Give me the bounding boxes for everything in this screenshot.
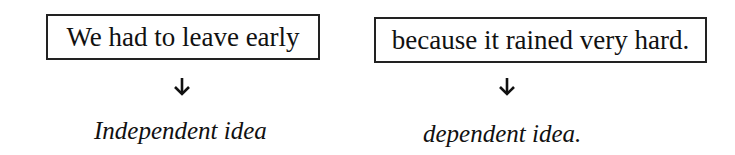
down-arrow-icon (497, 77, 517, 97)
independent-clause-text: We had to leave early (66, 24, 299, 51)
independent-idea-label: Independent idea (94, 118, 267, 143)
independent-clause-box: We had to leave early (46, 14, 320, 60)
dependent-idea-label: dependent idea. (423, 121, 581, 146)
dependent-clause-box: because it rained very hard. (374, 17, 707, 63)
dependent-clause-text: because it rained very hard. (392, 27, 690, 54)
down-arrow-icon (172, 77, 192, 97)
